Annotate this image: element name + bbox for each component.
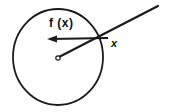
function-label: f (x) (49, 17, 74, 29)
force-vector-shaft (51, 38, 108, 39)
radial-ray (59, 6, 158, 57)
diagram-canvas: f (x) x (0, 0, 169, 112)
center-open-dot (56, 56, 60, 60)
figure-svg (0, 0, 169, 112)
force-vector-arrowhead (47, 36, 57, 43)
point-label-x: x (111, 38, 117, 49)
